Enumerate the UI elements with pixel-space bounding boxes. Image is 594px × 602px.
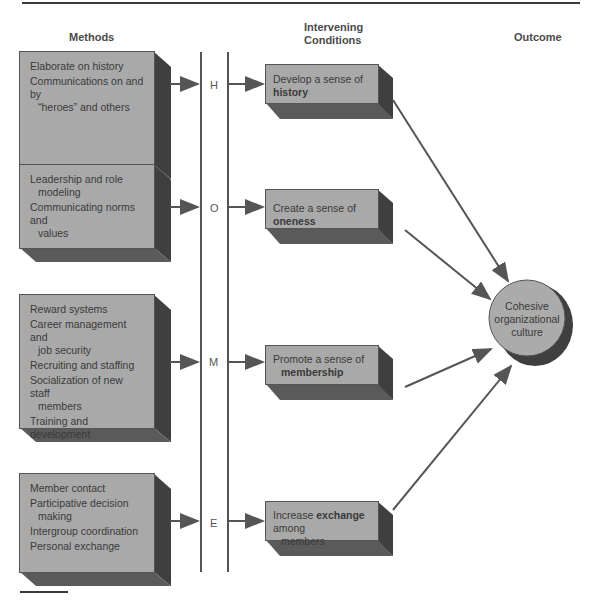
arrow-oneness-to-outcome [405,230,490,299]
outcome-line1: Cohesive [487,300,567,313]
arrow-history-to-outcome [393,100,508,281]
outcome-label: Cohesive organizational culture [487,300,567,339]
arrow-exchange-to-outcome [393,366,511,510]
bottom-rule [20,591,68,593]
outcome-line3: culture [487,326,567,339]
outcome-line2: organizational [487,313,567,326]
arrow-membership-to-outcome [405,349,491,387]
